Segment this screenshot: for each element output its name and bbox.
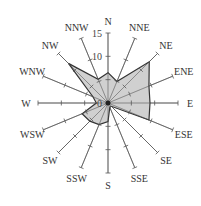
direction-label-ssw: SSW bbox=[66, 173, 87, 184]
direction-label-ne: NE bbox=[159, 40, 172, 51]
direction-label-nw: NW bbox=[42, 40, 59, 51]
direction-label-nne: NNE bbox=[129, 22, 150, 33]
direction-label-e: E bbox=[187, 98, 193, 109]
direction-label-sw: SW bbox=[43, 155, 59, 166]
spoke-sw bbox=[59, 103, 108, 152]
radial-tick-label: 0 bbox=[97, 98, 102, 109]
direction-label-sse: SSE bbox=[131, 173, 148, 184]
direction-label-s: S bbox=[105, 180, 111, 191]
direction-label-wnw: WNW bbox=[19, 66, 46, 77]
direction-label-w: W bbox=[21, 98, 31, 109]
direction-label-nnw: NNW bbox=[65, 22, 89, 33]
radial-tick-label: 10 bbox=[92, 51, 102, 62]
direction-label-wsw: WSW bbox=[20, 129, 45, 140]
direction-label-ese: ESE bbox=[175, 129, 193, 140]
center-dot bbox=[106, 101, 111, 106]
direction-label-se: SE bbox=[160, 155, 172, 166]
direction-label-n: N bbox=[104, 16, 111, 27]
wind-rose-chart: NNNENEENEEESESESSESSSWSWWSWWWNWNWNNW 101… bbox=[0, 0, 201, 206]
radial-tick-label: 15 bbox=[92, 28, 102, 39]
direction-label-ene: ENE bbox=[174, 66, 193, 77]
